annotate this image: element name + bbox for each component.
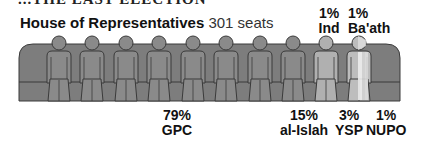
label-gpc: 79%GPC xyxy=(155,108,199,138)
label-islah: 15%al-Islah xyxy=(276,108,332,138)
label-baath: 1%Ba'ath xyxy=(348,6,392,36)
label-nupo: 1%NUPO xyxy=(366,108,406,138)
label-ysp: 3%YSP xyxy=(334,108,364,138)
label-ind: 1%Ind xyxy=(318,6,340,36)
minor-party-stripe xyxy=(358,52,362,100)
bench xyxy=(19,44,400,101)
minor-party-stripe xyxy=(362,52,365,100)
minor-party-stripe xyxy=(365,52,368,100)
